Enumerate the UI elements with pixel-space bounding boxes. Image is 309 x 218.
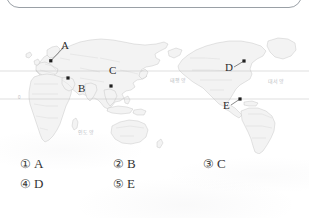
map-label-E: E <box>223 100 230 111</box>
equator-latitude-label: 0 <box>18 95 21 100</box>
option-3-number: ③ <box>203 157 214 171</box>
answer-options: ①A ②B ③C ④D ⑤E <box>0 152 309 200</box>
atlantic-ocean-label: 대서양 <box>268 77 284 84</box>
marker-dot-B <box>66 76 69 79</box>
option-4-value: D <box>34 176 43 191</box>
landmass-south-america <box>241 108 275 154</box>
option-4-number: ④ <box>20 177 31 191</box>
option-3-value: C <box>217 156 226 171</box>
map-label-D: D <box>225 62 233 73</box>
landmass-australia <box>111 120 148 144</box>
leader-line-E <box>231 99 240 105</box>
landmass-alaska <box>168 48 182 58</box>
option-5-number: ⑤ <box>113 177 124 191</box>
landmass-north-america <box>178 41 266 106</box>
landmass-caribbean <box>244 101 258 106</box>
marker-dot-C <box>109 84 112 87</box>
map-label-B: B <box>78 83 85 94</box>
landmass-indonesia-1 <box>107 106 133 114</box>
map-label-C: C <box>109 65 116 76</box>
pacific-ocean-label: 태평양 <box>170 76 186 83</box>
landmass-greenland <box>267 38 296 59</box>
option-1[interactable]: ①A <box>20 156 43 172</box>
option-5-value: E <box>127 176 135 191</box>
landmass-indonesia-2 <box>133 109 146 115</box>
landmass-iceland <box>26 52 32 58</box>
map-label-A: A <box>61 40 69 51</box>
option-3[interactable]: ③C <box>203 156 226 172</box>
world-map: A B C D E 인도양 태평양 대서양 0 <box>0 14 309 154</box>
question-box <box>6 0 302 8</box>
option-2[interactable]: ②B <box>113 156 136 172</box>
option-5[interactable]: ⑤E <box>113 176 135 192</box>
landmass-philippines <box>124 96 130 104</box>
option-1-number: ① <box>20 157 31 171</box>
option-2-number: ② <box>113 157 124 171</box>
world-map-svg <box>0 14 309 154</box>
option-4[interactable]: ④D <box>20 176 43 192</box>
option-2-value: B <box>127 156 136 171</box>
option-1-value: A <box>34 156 43 171</box>
indian-ocean-label: 인도양 <box>78 128 94 135</box>
landmass-new-zealand <box>157 139 163 148</box>
